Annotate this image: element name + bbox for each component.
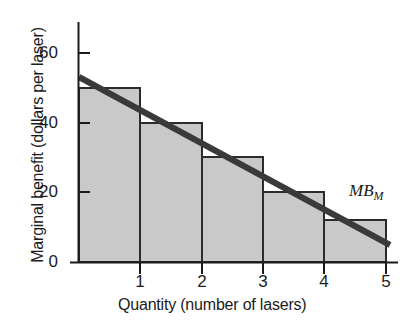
chart-figure: 60 40 20 0 1 2 3 4 5 Marginal benefit (d… [0, 0, 417, 329]
x-axis-title: Quantity (number of lasers) [118, 296, 408, 314]
marginal-benefit-curve-label: MBM [349, 181, 384, 204]
bar-series [79, 88, 386, 262]
curve-label-main: MB [349, 181, 374, 200]
y-axis-title: Marginal benefit (dollars per laser) [29, 11, 47, 279]
x-tick-label-4: 4 [311, 272, 337, 292]
bar-2 [140, 123, 202, 262]
x-tick-label-5: 5 [373, 272, 399, 292]
curve-label-subscript: M [374, 189, 384, 203]
bar-1 [79, 88, 140, 262]
x-tick-label-2: 2 [189, 272, 215, 292]
x-tick-label-3: 3 [250, 272, 276, 292]
x-tick-label-1: 1 [127, 272, 153, 292]
